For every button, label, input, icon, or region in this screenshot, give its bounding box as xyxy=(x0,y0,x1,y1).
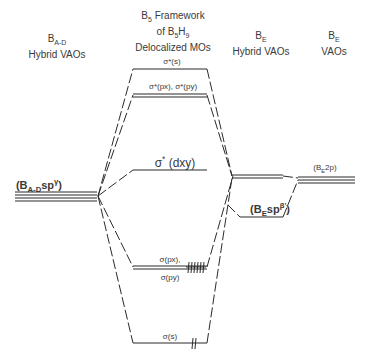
mo-diagram-lines xyxy=(0,0,365,361)
electrons-sigma-pxpy xyxy=(186,262,206,273)
bad-sp-gamma-levels xyxy=(15,192,97,201)
